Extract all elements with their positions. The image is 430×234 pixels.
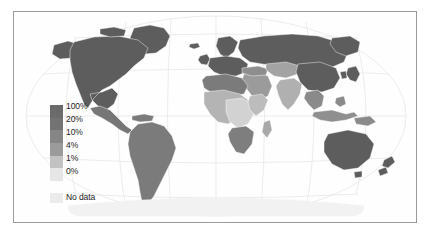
region-tasmania bbox=[354, 171, 362, 178]
region-philippines bbox=[335, 96, 346, 107]
region-new-zealand-south bbox=[378, 167, 388, 176]
legend-tick-4: 4% bbox=[66, 141, 78, 150]
legend-tick-0: 0% bbox=[66, 167, 78, 176]
legend-color-bar bbox=[50, 105, 63, 181]
legend-band-20 bbox=[50, 118, 63, 131]
legend-no-data-label: No data bbox=[66, 192, 95, 203]
region-southern-africa bbox=[228, 126, 254, 154]
region-australia bbox=[324, 130, 374, 170]
region-iceland bbox=[189, 43, 200, 49]
region-south-asia bbox=[276, 78, 302, 110]
map-legend: 100% 20% 10% 4% 1% 0% No data bbox=[50, 104, 155, 212]
legend-tick-10: 10% bbox=[66, 128, 83, 137]
region-southeast-asia bbox=[304, 90, 324, 110]
region-central-asia bbox=[266, 62, 300, 78]
legend-tick-1: 1% bbox=[66, 154, 78, 163]
region-new-zealand bbox=[382, 156, 395, 168]
legend-band-100 bbox=[50, 105, 63, 118]
region-indonesia bbox=[312, 110, 358, 122]
region-japan bbox=[346, 66, 360, 82]
region-papua-new-guinea bbox=[354, 116, 376, 126]
world-map-figure: 100% 20% 10% 4% 1% 0% No data bbox=[0, 0, 430, 234]
legend-band-1 bbox=[50, 156, 63, 169]
region-korea bbox=[340, 71, 347, 79]
region-scandinavia bbox=[216, 36, 238, 58]
figure-frame: 100% 20% 10% 4% 1% 0% No data bbox=[13, 11, 417, 223]
legend-tick-20: 20% bbox=[66, 115, 83, 124]
region-british-isles bbox=[198, 54, 210, 65]
legend-band-4 bbox=[50, 143, 63, 156]
legend-tick-labels: 100% 20% 10% 4% 1% 0% bbox=[66, 104, 146, 184]
legend-tick-100: 100% bbox=[66, 102, 87, 111]
legend-band-10 bbox=[50, 130, 63, 143]
legend-no-data-swatch bbox=[50, 193, 63, 203]
legend-no-data-row: No data bbox=[50, 192, 155, 205]
region-north-america bbox=[70, 36, 148, 110]
region-madagascar bbox=[262, 120, 272, 138]
legend-band-0 bbox=[50, 168, 63, 181]
